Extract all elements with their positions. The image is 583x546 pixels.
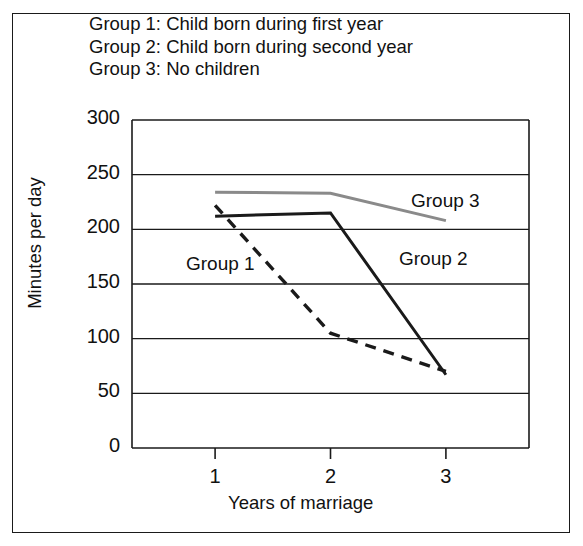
legend-line-group-1: Group 1: Child born during first year [89, 13, 413, 36]
legend-line-group-3: Group 3: No children [89, 58, 413, 81]
legend-line-group-2: Group 2: Child born during second year [89, 36, 413, 59]
series-inline-label-group-2: Group 2 [399, 248, 468, 270]
y-axis-title: Minutes per day [24, 143, 46, 343]
y-tick-label: 250 [58, 161, 120, 184]
series-inline-label-group-3: Group 3 [411, 190, 480, 212]
x-tick-label: 3 [426, 465, 466, 488]
y-tick-label: 0 [58, 434, 120, 457]
y-tick-label: 50 [58, 379, 120, 402]
x-tick-label: 1 [195, 465, 235, 488]
legend-text-block: Group 1: Child born during first year Gr… [89, 13, 413, 81]
x-axis-title: Years of marriage [228, 492, 373, 514]
x-tick-label: 2 [311, 465, 351, 488]
y-tick-label: 100 [58, 325, 120, 348]
y-tick-label: 150 [58, 270, 120, 293]
series-inline-label-group-1: Group 1 [186, 253, 255, 275]
y-tick-label: 300 [58, 106, 120, 129]
y-tick-label: 200 [58, 215, 120, 238]
